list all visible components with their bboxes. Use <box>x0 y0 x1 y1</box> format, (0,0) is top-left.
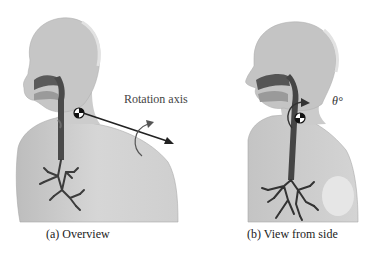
side-view-illustration <box>188 0 376 254</box>
panel-overview: Rotation axis (a) Overview <box>0 0 188 254</box>
oral-cavity <box>258 91 288 102</box>
rotation-center-marker <box>74 108 84 118</box>
rotation-axis-label: Rotation axis <box>124 92 188 107</box>
caption-side-view: (b) View from side <box>247 227 338 242</box>
rotation-angle-label: θ° <box>332 94 343 109</box>
torso-shape <box>16 112 178 222</box>
rotation-center-marker <box>295 113 305 123</box>
overview-illustration <box>0 0 188 254</box>
caption-overview: (a) Overview <box>46 227 110 242</box>
panel-side-view: θ° (b) View from side <box>188 0 376 254</box>
